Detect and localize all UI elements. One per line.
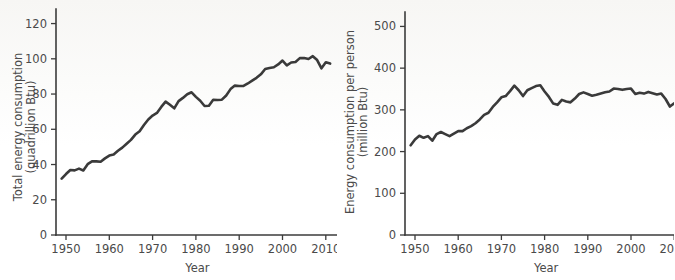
data-line-total-energy	[62, 56, 330, 178]
y-tick-label: 100	[25, 52, 47, 66]
x-tick-label: 2000	[616, 242, 645, 256]
y-tick-label: 100	[374, 186, 396, 200]
y-axis-title-line2: (quadrillion Btu)	[24, 80, 38, 173]
y-tick-label: 0	[40, 228, 47, 242]
x-tick-label: 1970	[138, 242, 167, 256]
x-axis-group-1: 1950196019701980199020002010	[400, 235, 674, 256]
y-tick-label: 500	[374, 19, 396, 33]
x-tick-label: 2010	[660, 242, 674, 256]
chart-panel-per-person: 0100200300400500 19501960197019801990200…	[337, 0, 674, 280]
x-tick-label: 1980	[181, 242, 210, 256]
y-axis-title-line1: Energy consumption per person	[343, 30, 357, 214]
y-axis-group-1: 0100200300400500	[374, 12, 405, 242]
x-axis-group-0: 1950196019701980199020002010	[51, 235, 337, 256]
y-tick-label: 400	[374, 61, 396, 75]
x-axis-title: Year	[184, 261, 210, 275]
chart-panel-total-energy: 020406080100120 195019601970198019902000…	[0, 0, 337, 280]
x-tick-label: 1970	[487, 242, 516, 256]
x-tick-label: 2010	[311, 242, 337, 256]
y-tick-label: 20	[32, 193, 47, 207]
x-tick-label: 1960	[444, 242, 473, 256]
y-tick-label: 300	[374, 103, 396, 117]
energy-consumption-figure: 020406080100120 195019601970198019902000…	[0, 0, 675, 280]
y-axis-title-line2: (million Btu)	[356, 87, 370, 158]
x-tick-label: 1950	[51, 242, 80, 256]
x-tick-label: 1990	[573, 242, 602, 256]
x-tick-labels: 1950196019701980199020002010	[400, 242, 674, 256]
x-tick-labels: 1950196019701980199020002010	[51, 242, 337, 256]
x-tick-label: 1950	[400, 242, 429, 256]
y-tick-label: 120	[25, 17, 47, 31]
x-tick-label: 1990	[225, 242, 254, 256]
y-tick-labels: 0100200300400500	[374, 19, 396, 242]
y-tick-label: 200	[374, 145, 396, 159]
data-line-per-person	[411, 85, 674, 145]
x-tick-label: 2000	[268, 242, 297, 256]
x-tick-label: 1960	[95, 242, 124, 256]
y-axis-title-line1: Total energy consumption	[11, 53, 25, 203]
chart-svg-total-energy: 020406080100120 195019601970198019902000…	[0, 0, 337, 280]
x-tick-label: 1980	[530, 242, 559, 256]
x-axis-title: Year	[533, 261, 559, 275]
y-tick-label: 0	[389, 228, 396, 242]
chart-svg-per-person: 0100200300400500 19501960197019801990200…	[337, 0, 674, 280]
